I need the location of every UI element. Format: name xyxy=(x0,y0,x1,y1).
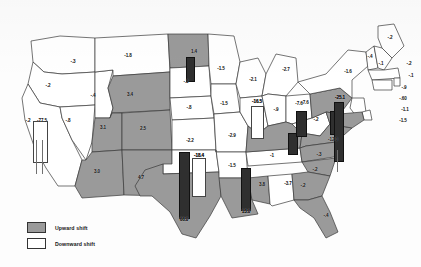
bar-PA xyxy=(334,102,344,162)
label-FL: -.4 xyxy=(323,214,328,219)
label-TN: -1 xyxy=(270,154,274,159)
bar-label-LA: 13.0 xyxy=(242,210,251,215)
legend-label-downward: Downward shift xyxy=(55,241,95,247)
bar-label-OK: -18.4 xyxy=(194,154,204,159)
label-NY: -1.6 xyxy=(344,70,352,75)
state-MT xyxy=(95,34,170,76)
legend-swatch-downward-icon xyxy=(27,238,46,249)
state-RI xyxy=(394,78,400,86)
label-VA: -12.0 xyxy=(328,138,338,143)
label-MA: -.2 xyxy=(406,62,411,67)
label-WY: 3.4 xyxy=(127,93,133,98)
label-MI: -2.7 xyxy=(282,68,290,73)
choropleth-map-figure: -.3 -.2 -.2 -.8 -.4 -1.8 3.4 3.1 2.5 3.0… xyxy=(0,0,421,267)
label-IA: -1.5 xyxy=(220,102,228,107)
label-NC: -.3 xyxy=(316,153,321,158)
bar-label-TX: 66.0 xyxy=(180,218,189,223)
label-MO: -2.9 xyxy=(228,134,236,139)
label-CT: -.9 xyxy=(401,86,406,91)
state-CT xyxy=(372,80,392,90)
label-NH: -.1 xyxy=(378,62,383,67)
state-MN xyxy=(208,34,240,84)
state-MI xyxy=(262,54,298,96)
label-RI: -.1 xyxy=(408,74,413,79)
state-IA xyxy=(211,84,240,114)
bar-label-PA: -25.1 xyxy=(335,96,345,101)
state-WA xyxy=(31,36,95,74)
label-GA: -.2 xyxy=(300,184,305,189)
label-AL: -3.7 xyxy=(284,182,292,187)
state-UT xyxy=(92,113,122,152)
legend-swatch-upward-icon xyxy=(27,222,46,233)
bar-OH xyxy=(296,111,307,137)
label-CA: -.2 xyxy=(25,119,30,124)
bar-label-CA: -77.5 xyxy=(37,119,47,124)
bar-label-IL: -16.5 xyxy=(252,100,262,105)
bar-OK xyxy=(192,158,206,197)
legend-item-downward: Downward shift xyxy=(27,238,95,249)
label-ND: 1.4 xyxy=(191,50,197,55)
legend: Upward shift Downward shift xyxy=(27,222,95,254)
label-MT: -1.8 xyxy=(124,54,132,59)
state-AL xyxy=(268,174,294,206)
bar-LA xyxy=(241,168,251,211)
label-KS: -2.2 xyxy=(186,139,194,144)
bar-TX xyxy=(179,152,190,219)
bar-stem-CA xyxy=(36,140,37,174)
state-TX xyxy=(135,164,221,238)
label-MS: 3.8 xyxy=(259,183,265,188)
label-NV: -.8 xyxy=(65,119,70,124)
label-WA: -.3 xyxy=(70,60,75,65)
label-ME: -.2 xyxy=(387,36,392,41)
label-DE: -1.1 xyxy=(401,108,409,113)
state-CO xyxy=(122,110,172,150)
label-AZ: 3.0 xyxy=(94,170,100,175)
state-KS xyxy=(172,118,216,150)
label-MN: -1.5 xyxy=(217,67,225,72)
label-CO: 2.5 xyxy=(140,127,146,132)
label-IN: -.9 xyxy=(273,108,278,113)
label-NM: 4.7 xyxy=(138,176,144,181)
label-WV: -.2 xyxy=(313,118,318,123)
legend-item-upward: Upward shift xyxy=(27,222,95,233)
label-UT: 3.1 xyxy=(100,126,106,131)
label-AR: -1.5 xyxy=(228,164,236,169)
state-NE xyxy=(170,96,214,120)
bar-IL xyxy=(251,106,264,139)
label-SD: -.3 xyxy=(183,80,188,85)
label-NJ: -.60 xyxy=(399,97,407,102)
state-GA xyxy=(292,172,330,200)
label-VT: -.4 xyxy=(367,55,372,60)
label-OR: -.2 xyxy=(45,84,50,89)
label-ID: -.4 xyxy=(90,94,95,99)
label-NE: -.8 xyxy=(186,106,191,111)
label-OH: -7.6 xyxy=(301,101,309,106)
bar-stem-PA xyxy=(337,150,338,172)
label-WI: -2.1 xyxy=(249,78,257,83)
legend-label-upward: Upward shift xyxy=(55,225,88,231)
state-FL xyxy=(294,196,338,238)
label-SC: -.2 xyxy=(312,168,317,173)
bar-stem-CA2 xyxy=(42,140,43,174)
label-MD: -1.5 xyxy=(399,119,407,124)
